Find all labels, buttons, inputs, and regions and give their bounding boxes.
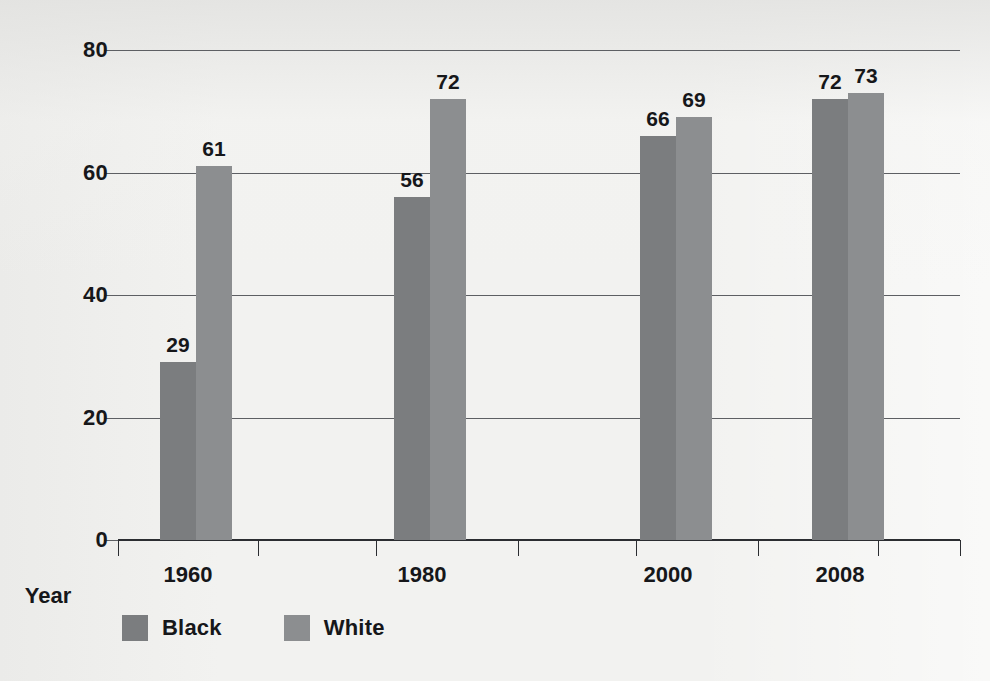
bar-black-2000[interactable]: 66: [640, 136, 676, 540]
chart-page: 8060402002961567266697273196019802000200…: [0, 0, 990, 681]
bar-value-label: 72: [818, 70, 841, 94]
bar-value-label: 73: [854, 64, 877, 88]
bar-white-2000[interactable]: 69: [676, 117, 712, 540]
chart-legend: BlackWhite: [122, 615, 385, 641]
x-axis-tick: [878, 540, 879, 556]
bar-value-label: 61: [202, 137, 225, 161]
legend-label: White: [324, 615, 385, 641]
x-axis-title-text: Year: [25, 583, 72, 608]
bar-white-1980[interactable]: 72: [430, 99, 466, 540]
bar-black-2008[interactable]: 72: [812, 99, 848, 540]
x-axis-tick: [636, 540, 637, 556]
x-axis-tick: [376, 540, 377, 556]
legend-swatch-icon: [122, 615, 148, 641]
bar-value-label: 69: [682, 88, 705, 112]
y-axis-tick-label: 40: [83, 282, 108, 308]
y-axis-tick-label: 0: [95, 527, 108, 553]
legend-item-white[interactable]: White: [284, 615, 385, 641]
x-axis-tick: [960, 540, 961, 556]
bar-black-1960[interactable]: 29: [160, 362, 196, 540]
y-axis-tick-label: 20: [83, 405, 108, 431]
x-axis-tick: [758, 540, 759, 556]
x-axis-title: Year: [0, 583, 990, 609]
bar-chart-plot-area: 8060402002961567266697273196019802000200…: [118, 50, 960, 540]
bar-black-1980[interactable]: 56: [394, 197, 430, 540]
legend-item-black[interactable]: Black: [122, 615, 222, 641]
x-axis-tick: [258, 540, 259, 556]
y-axis-tick-label: 60: [83, 160, 108, 186]
y-axis-tick-label: 80: [83, 37, 108, 63]
bar-value-label: 72: [436, 70, 459, 94]
bar-value-label: 66: [646, 107, 669, 131]
legend-swatch-icon: [284, 615, 310, 641]
bar-value-label: 29: [166, 333, 189, 357]
x-axis-tick: [118, 540, 119, 556]
x-axis-tick: [518, 540, 519, 556]
gridline: [118, 50, 960, 51]
bar-white-2008[interactable]: 73: [848, 93, 884, 540]
legend-label: Black: [162, 615, 222, 641]
bar-value-label: 56: [400, 168, 423, 192]
bar-white-1960[interactable]: 61: [196, 166, 232, 540]
